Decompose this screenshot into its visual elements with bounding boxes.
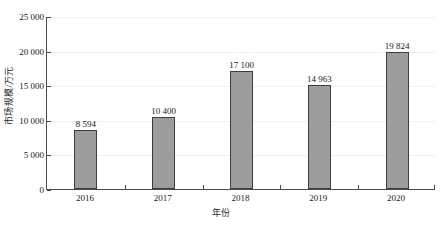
bar-value-label: 8 594 [56, 119, 116, 129]
y-axis-tick-mark [47, 52, 51, 53]
y-axis-tick-mark [47, 155, 51, 156]
y-axis-tick-mark [47, 86, 51, 87]
bar-value-label: 10 400 [134, 106, 194, 116]
gridline [47, 52, 435, 53]
bar-value-label: 19 824 [367, 41, 427, 51]
y-axis-tick-mark [47, 17, 51, 18]
gridline [47, 17, 435, 18]
bar-value-label: 14 963 [289, 74, 349, 84]
y-axis-tick-mark [47, 190, 51, 191]
y-axis-tick-label: 15 000 [0, 81, 44, 91]
bar[interactable] [308, 85, 331, 189]
y-axis-tick-mark [47, 121, 51, 122]
y-axis-tick-labels: 05 00010 00015 00020 00025 000 [0, 0, 44, 228]
x-axis-tick-mark [125, 185, 126, 189]
x-axis-tick-label: 2020 [366, 193, 426, 204]
y-axis-tick-label: 20 000 [0, 47, 44, 57]
x-axis-tick-label: 2016 [55, 193, 115, 204]
bar[interactable] [152, 117, 175, 189]
bar-chart: 市场规模/万元 05 00010 00015 00020 00025 000 8… [0, 0, 442, 228]
plot-area: 8 59410 40017 10014 96319 824 [46, 17, 435, 190]
x-axis-tick-label: 2019 [288, 193, 348, 204]
y-axis-tick-label: 25 000 [0, 12, 44, 22]
x-axis-tick-mark [280, 185, 281, 189]
bar[interactable] [230, 71, 253, 189]
bar-value-label: 17 100 [212, 60, 272, 70]
x-axis-tick-label: 2018 [211, 193, 271, 204]
y-axis-tick-label: 10 000 [0, 116, 44, 126]
x-axis-tick-mark [203, 185, 204, 189]
bar[interactable] [74, 130, 97, 189]
axis-corner-stub-right [434, 185, 435, 189]
x-axis-title: 年份 [0, 206, 442, 219]
y-axis-tick-label: 5 000 [0, 150, 44, 160]
x-axis-title-label: 年份 [212, 208, 231, 218]
y-axis-tick-label: 0 [0, 185, 44, 195]
bar[interactable] [386, 52, 409, 189]
x-axis-tick-mark [358, 185, 359, 189]
x-axis-tick-label: 2017 [133, 193, 193, 204]
